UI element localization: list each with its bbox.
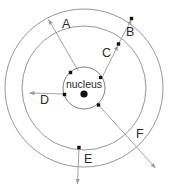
atom-diagram-canvas: nucleus ABCDEF	[0, 0, 169, 190]
transition-label-B: B	[126, 25, 134, 39]
transition-label-E: E	[84, 152, 92, 166]
transition-label-C: C	[102, 46, 111, 60]
electron-nucleus-upper-left	[69, 71, 72, 74]
transition-label-D: D	[40, 93, 49, 107]
bohr-model-diagram: nucleus ABCDEF	[0, 0, 169, 190]
transition-line-F	[99, 105, 156, 168]
electron-nucleus-upper-right	[99, 76, 102, 79]
electron-outer-upper-right	[130, 17, 133, 20]
transition-label-F: F	[136, 127, 144, 141]
nucleus-core-dot	[80, 90, 87, 97]
transition-label-A: A	[62, 17, 71, 31]
electron-middle-upper-right	[117, 42, 120, 45]
transition-line-E	[78, 148, 80, 185]
transition-labels-group: ABCDEF	[40, 17, 144, 166]
arrow-head-E	[76, 179, 80, 184]
arrow-head-D	[30, 91, 35, 95]
electron-nucleus-lower-right	[97, 103, 100, 106]
nucleus-label: nucleus	[66, 78, 102, 90]
electron-middle-bottom	[77, 146, 80, 149]
electron-nucleus-left	[63, 93, 66, 96]
